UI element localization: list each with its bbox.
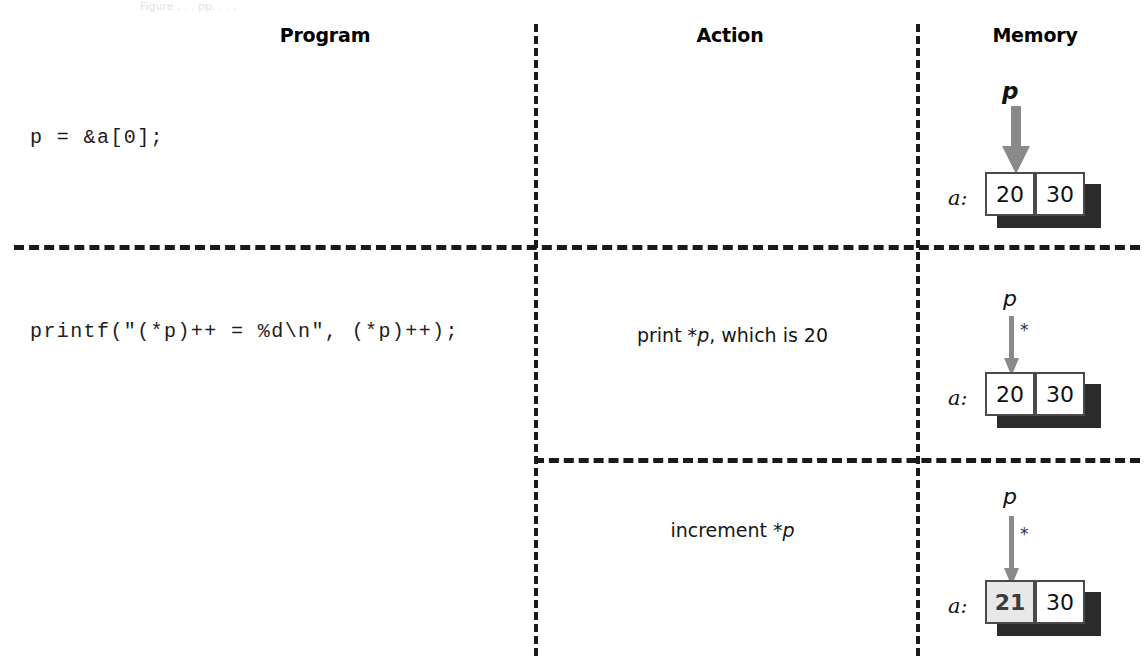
array-boxes-action-print: 20 30 <box>985 372 1085 416</box>
array-name-label-action-print: a: <box>948 386 968 410</box>
array-cell-1: 30 <box>1035 172 1085 216</box>
action-print-prefix: print * <box>637 324 697 346</box>
array-cell-1: 30 <box>1035 580 1085 624</box>
column-header-action: Action <box>595 24 865 46</box>
action-print-suffix: , which is 20 <box>709 324 828 346</box>
deref-star-action-increment: * <box>1020 526 1029 543</box>
program-code-row-2: printf("(*p)++ = %d\n", (*p)++); <box>30 320 459 343</box>
array-boxes-row-1: 20 30 <box>985 172 1085 216</box>
action-increment-prefix: increment * <box>670 519 782 541</box>
array-name-label-action-increment: a: <box>948 594 968 618</box>
deref-star-action-print: * <box>1020 322 1029 339</box>
arrow-down-icon <box>996 106 1036 176</box>
column-header-program: Program <box>180 24 470 46</box>
array-cell-0: 20 <box>985 172 1035 216</box>
divider-horizontal-row1-row2 <box>14 245 1140 250</box>
pointer-label-p-row-1: p <box>1002 78 1018 104</box>
pointer-trace-figure: Figure . . . pp. . . . Program Action Me… <box>0 0 1148 660</box>
array-cell-0: 20 <box>985 372 1035 416</box>
action-text-increment: increment *p <box>585 519 880 541</box>
scan-artifact-text: Figure . . . pp. . . . <box>140 0 237 13</box>
column-header-memory: Memory <box>945 24 1125 46</box>
program-code-row-1: p = &a[0]; <box>30 126 164 149</box>
array-name-label-row-1: a: <box>948 186 968 210</box>
array-cell-0: 21 <box>985 580 1035 624</box>
array-cell-1: 30 <box>1035 372 1085 416</box>
pointer-label-p-action-print: p <box>1003 286 1017 311</box>
divider-horizontal-action-split <box>534 458 1140 463</box>
action-increment-italic-p: p <box>783 519 795 541</box>
action-text-print: print *p, which is 20 <box>560 324 905 346</box>
array-boxes-action-increment: 21 30 <box>985 580 1085 624</box>
pointer-label-p-action-increment: p <box>1003 484 1017 509</box>
divider-vertical-program-action <box>534 24 538 656</box>
action-print-italic-p: p <box>697 324 709 346</box>
divider-vertical-action-memory <box>916 24 920 656</box>
pointer-arrow-thick-row-1 <box>996 106 1036 180</box>
